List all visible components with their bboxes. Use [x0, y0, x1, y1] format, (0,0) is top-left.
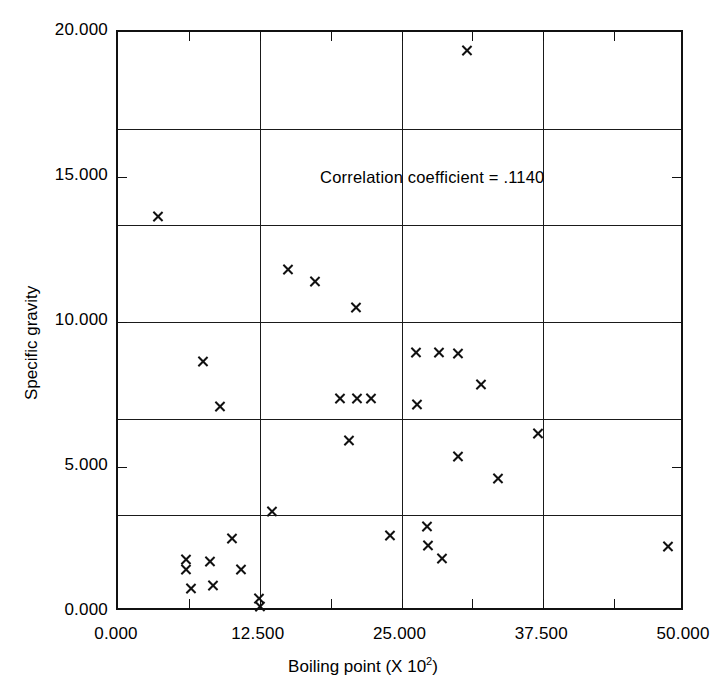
- y-axis-tick-label: 15.000: [22, 165, 108, 185]
- plot-area: [116, 30, 683, 610]
- x-axis-tick-label: 12.500: [231, 624, 284, 644]
- y-axis-tick: [118, 467, 127, 468]
- data-point: [266, 505, 279, 518]
- x-axis-minor-tick-top: [614, 32, 615, 41]
- x-axis-label-text: Boiling point (X 10: [288, 657, 426, 676]
- data-point: [282, 263, 295, 276]
- y-axis-tick-right: [672, 322, 681, 323]
- data-point: [334, 392, 347, 405]
- data-point: [461, 44, 474, 57]
- data-point: [309, 275, 322, 288]
- data-point: [350, 301, 363, 314]
- correlation-annotation: Correlation coefficient = .1140: [320, 168, 544, 187]
- data-point: [411, 398, 424, 411]
- data-point: [531, 427, 544, 440]
- data-point: [421, 539, 434, 552]
- x-axis-minor-tick: [614, 599, 615, 608]
- data-point: [432, 346, 445, 359]
- x-axis-tick-label: 37.500: [515, 624, 568, 644]
- x-axis-tick-top: [543, 32, 544, 41]
- x-axis-tick: [260, 599, 261, 608]
- gridline-horizontal: [118, 225, 681, 226]
- scatter-plot-figure: Correlation coefficient = .1140 Boiling …: [0, 0, 726, 692]
- data-point: [180, 553, 193, 566]
- x-axis-label: Boiling point (X 102): [0, 655, 726, 677]
- data-point: [364, 392, 377, 405]
- data-point: [225, 532, 238, 545]
- y-axis-tick-label: 0.000: [22, 600, 108, 620]
- data-point: [343, 434, 356, 447]
- gridline-vertical: [543, 32, 544, 608]
- data-point: [197, 355, 210, 368]
- x-axis-tick-label: 50.000: [656, 624, 709, 644]
- data-point: [452, 450, 465, 463]
- data-point: [384, 529, 397, 542]
- data-point: [180, 563, 193, 576]
- data-point: [661, 540, 674, 553]
- x-axis-tick: [543, 599, 544, 608]
- y-axis-tick-label: 5.000: [22, 455, 108, 475]
- gridline-horizontal: [118, 419, 681, 420]
- data-point: [214, 400, 227, 413]
- data-point: [474, 378, 487, 391]
- data-point: [351, 392, 364, 405]
- x-axis-minor-tick: [189, 599, 190, 608]
- x-axis-tick-top: [260, 32, 261, 41]
- x-axis-minor-tick-top: [189, 32, 190, 41]
- x-axis-minor-tick-top: [472, 32, 473, 41]
- y-axis-label: Specific gravity: [22, 286, 42, 400]
- x-axis-tick: [402, 599, 403, 608]
- data-point: [491, 472, 504, 485]
- x-axis-minor-tick-top: [331, 32, 332, 41]
- y-axis-tick: [118, 177, 127, 178]
- x-axis-tick-label: 0.000: [94, 624, 138, 644]
- y-axis-tick: [118, 322, 127, 323]
- data-point: [252, 592, 265, 605]
- x-axis-minor-tick: [331, 599, 332, 608]
- x-axis-label-tail: ): [432, 657, 438, 676]
- gridline-horizontal: [118, 129, 681, 130]
- y-axis-tick-right: [672, 177, 681, 178]
- data-point: [151, 210, 164, 223]
- y-axis-tick-label: 20.000: [22, 20, 108, 40]
- data-point: [203, 555, 216, 568]
- x-axis-minor-tick: [472, 599, 473, 608]
- y-axis-tick-right: [672, 467, 681, 468]
- data-point: [207, 579, 220, 592]
- gridline-horizontal: [118, 515, 681, 516]
- data-point: [184, 582, 197, 595]
- data-point: [410, 346, 423, 359]
- x-axis-tick-label: 25.000: [373, 624, 426, 644]
- gridline-vertical: [402, 32, 403, 608]
- data-point: [234, 563, 247, 576]
- gridline-vertical: [260, 32, 261, 608]
- data-point: [420, 520, 433, 533]
- data-point: [452, 347, 465, 360]
- x-axis-tick-top: [402, 32, 403, 41]
- gridline-horizontal: [118, 322, 681, 323]
- y-axis-tick-label: 10.000: [22, 310, 108, 330]
- data-point: [436, 552, 449, 565]
